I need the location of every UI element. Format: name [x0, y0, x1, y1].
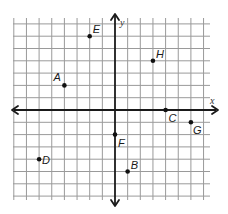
point-label: E: [93, 23, 101, 35]
point-dot-icon: [151, 59, 156, 64]
points: ABCDEFGH: [37, 23, 202, 174]
point-label: D: [42, 154, 50, 166]
point-dot-icon: [87, 34, 92, 39]
point-label: A: [52, 71, 60, 83]
point-dot-icon: [62, 83, 67, 88]
point-dot-icon: [37, 157, 42, 162]
x-axis-label: x: [209, 95, 215, 106]
point-dot-icon: [163, 108, 168, 113]
y-axis-label: y: [119, 17, 125, 28]
point-label: G: [193, 124, 202, 136]
point-label: B: [131, 159, 138, 171]
grid-lines: [13, 18, 210, 200]
point-label: C: [169, 112, 177, 124]
point-dot-icon: [125, 169, 130, 174]
point-label: H: [156, 48, 164, 60]
coordinate-plane: y x ABCDEFGH: [0, 0, 228, 214]
axes: [12, 14, 218, 206]
point-dot-icon: [113, 132, 118, 137]
